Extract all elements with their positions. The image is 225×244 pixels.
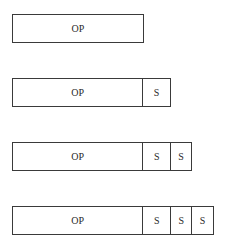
s-field: S [142, 207, 170, 234]
op-field: OP [13, 79, 142, 106]
instruction-format-op-three-s: OP S S S [12, 206, 214, 235]
s-field: S [142, 79, 170, 106]
s-field: S [191, 207, 213, 234]
op-field: OP [13, 207, 142, 234]
s-field: S [142, 143, 170, 170]
s-field: S [170, 143, 191, 170]
op-field: OP [13, 15, 143, 42]
s-field: S [170, 207, 191, 234]
instruction-format-op-only: OP [12, 14, 144, 43]
instruction-format-op-two-s: OP S S [12, 142, 192, 171]
instruction-format-op-one-s: OP S [12, 78, 171, 107]
op-field: OP [13, 143, 142, 170]
